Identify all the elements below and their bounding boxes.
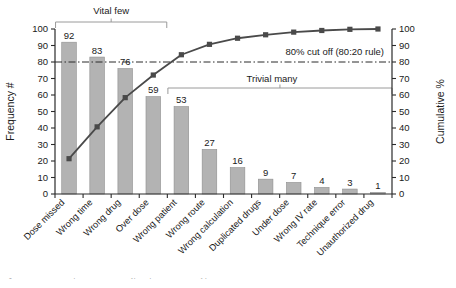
bar-value-label: 27	[204, 137, 215, 148]
bar-over-dose	[146, 97, 161, 194]
bar-value-label: 4	[319, 175, 324, 186]
bar-value-label: 1	[375, 180, 380, 191]
bar-wrong-drug	[118, 69, 133, 194]
y-axis-right-tick-label: 40	[399, 122, 410, 133]
cumulative-marker	[95, 124, 100, 129]
bar-value-label: 3	[347, 177, 352, 188]
y-axis-right-tick-label: 70	[399, 73, 410, 84]
bar-value-label: 7	[291, 170, 296, 181]
y-axis-right-tick-label: 50	[399, 106, 410, 117]
trivial-many-bracket	[168, 88, 392, 94]
bar-technique-error	[343, 189, 358, 194]
y-axis-left-tick-label: 100	[32, 23, 48, 34]
cumulative-marker	[347, 27, 352, 32]
y-axis-left-tick-label: 30	[37, 139, 48, 150]
cumulative-marker	[291, 30, 296, 35]
bar-value-label: 59	[148, 84, 159, 95]
bar-value-label: 53	[176, 94, 187, 105]
cumulative-marker	[319, 28, 324, 33]
bar-wrong-route	[202, 149, 217, 194]
cumulative-marker	[151, 72, 156, 77]
vital-few-label: Vital few	[93, 5, 129, 16]
bar-wrong-patient	[174, 107, 189, 194]
bar-value-label: 92	[64, 30, 75, 41]
y-axis-right-tick-label: 90	[399, 40, 410, 51]
y-axis-left-tick-label: 0	[43, 188, 48, 199]
y-axis-left-tick-label: 60	[37, 89, 48, 100]
cumulative-marker	[66, 156, 71, 161]
bar-value-label: 83	[92, 45, 103, 56]
y-axis-right-title: Cumulative %	[434, 79, 446, 144]
bar-wrong-iv-rate	[314, 187, 329, 194]
y-axis-left-tick-label: 70	[37, 73, 48, 84]
y-axis-right-tick-label: 30	[399, 139, 410, 150]
vital-few-bracket	[56, 22, 167, 28]
y-axis-right-tick-label: 0	[399, 188, 404, 199]
y-axis-left-tick-label: 10	[37, 172, 48, 183]
y-axis-left-tick-label: 40	[37, 122, 48, 133]
y-axis-right-tick-label: 20	[399, 155, 410, 166]
y-axis-left-tick-label: 50	[37, 106, 48, 117]
bar-wrong-calculation	[230, 168, 245, 194]
y-axis-right-tick-label: 100	[399, 23, 415, 34]
bar-dose-missed	[62, 42, 77, 194]
pareto-chart-svg: Vital fewTrivial many9283765953271697431…	[0, 0, 456, 288]
trivial-many-label: Trivial many	[247, 73, 298, 84]
y-axis-right-tick-label: 80	[399, 56, 410, 67]
bar-duplicated-drugs	[258, 179, 273, 194]
pareto-chart: Vital fewTrivial many9283765953271697431…	[0, 0, 456, 288]
cumulative-marker	[179, 52, 184, 57]
bar-value-label: 16	[232, 155, 243, 166]
cumulative-marker	[123, 95, 128, 100]
y-axis-left-tick-label: 90	[37, 40, 48, 51]
cumulative-marker	[207, 42, 212, 47]
figure-caption-strip: Fig. 2 Pareto chart of the top 12 medica…	[0, 278, 456, 288]
y-axis-right-tick-label: 10	[399, 172, 410, 183]
x-axis-category-label: Technique error	[295, 197, 347, 249]
figure-caption: Fig. 2 Pareto chart of the top 12 medica…	[4, 278, 267, 279]
bar-value-label: 9	[263, 167, 268, 178]
cumulative-marker	[263, 32, 268, 37]
y-axis-right-tick-label: 60	[399, 89, 410, 100]
cutoff-line-label: 80% cut off (80:20 rule)	[285, 46, 384, 57]
cumulative-marker	[375, 26, 380, 31]
y-axis-left-tick-label: 20	[37, 155, 48, 166]
bar-under-dose	[286, 182, 301, 194]
y-axis-left-tick-label: 80	[37, 56, 48, 67]
cumulative-marker	[235, 36, 240, 41]
y-axis-left-title: Frequency #	[4, 82, 16, 141]
